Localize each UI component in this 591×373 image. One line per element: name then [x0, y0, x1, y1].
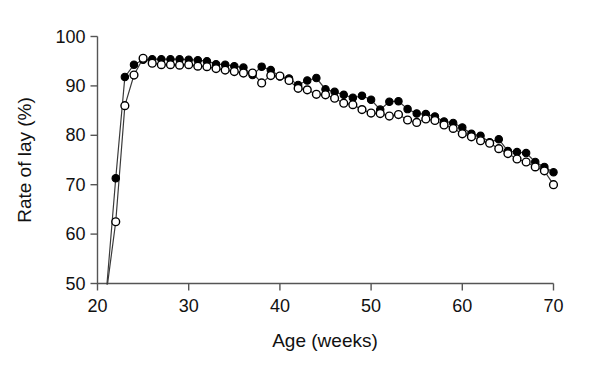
data-point-open: [449, 124, 457, 132]
data-point-open: [258, 79, 266, 87]
data-point-open: [349, 101, 357, 109]
data-point-filled: [112, 175, 119, 182]
data-point-open: [157, 61, 165, 69]
series-line-open: [107, 58, 554, 291]
series-line-filled: [107, 59, 554, 288]
data-point-open: [240, 69, 248, 77]
data-point-filled: [358, 92, 365, 99]
data-point-open: [495, 145, 503, 153]
x-axis-ticks: [98, 284, 554, 291]
data-point-open: [458, 130, 466, 138]
y-axis-tick-label: 80: [65, 125, 85, 145]
data-point-open: [322, 91, 330, 99]
data-point-open: [331, 94, 339, 102]
data-point-filled: [495, 136, 502, 143]
x-axis-tick-label: 50: [361, 296, 381, 316]
data-point-open: [468, 133, 476, 141]
data-point-open: [367, 109, 375, 117]
data-point-open: [230, 68, 238, 76]
data-point-open: [385, 112, 393, 120]
data-point-filled: [404, 105, 411, 112]
data-point-open: [130, 71, 138, 79]
x-axis-tick-label: 60: [452, 296, 472, 316]
y-axis-label: Rate of lay (%): [14, 97, 35, 223]
data-point-open: [550, 181, 558, 189]
data-point-filled: [130, 61, 137, 68]
chart-figure: 5060708090100 203040506070 Age (weeks) R…: [0, 0, 591, 373]
data-point-open: [440, 121, 448, 129]
data-point-open: [167, 61, 175, 69]
rate-of-lay-line-chart: 5060708090100 203040506070 Age (weeks) R…: [0, 0, 591, 373]
data-point-open: [540, 167, 548, 175]
data-point-filled: [304, 77, 311, 84]
x-axis-label: Age (weeks): [272, 330, 378, 351]
y-axis-tick-label: 90: [65, 76, 85, 96]
y-axis-tick-label: 50: [65, 274, 85, 294]
data-point-open: [112, 218, 120, 226]
data-point-open: [431, 117, 439, 125]
data-point-open: [531, 163, 539, 171]
series-lines: [107, 58, 554, 291]
data-point-open: [522, 158, 530, 166]
data-point-open: [276, 72, 284, 80]
data-point-open: [294, 84, 302, 92]
data-point-open: [340, 99, 348, 107]
data-point-filled: [550, 169, 557, 176]
data-point-filled: [258, 63, 265, 70]
data-point-open: [404, 116, 412, 124]
data-point-open: [376, 110, 384, 118]
data-point-filled: [395, 98, 402, 105]
x-axis-tick-labels: 203040506070: [87, 296, 563, 316]
data-point-open: [194, 62, 202, 70]
chart-axes: [98, 37, 554, 284]
axis-spine-path: [98, 37, 554, 284]
data-point-filled: [313, 74, 320, 81]
y-axis-tick-label: 60: [65, 224, 85, 244]
data-point-open: [267, 72, 275, 80]
data-point-open: [139, 54, 147, 62]
data-point-open: [303, 86, 311, 94]
data-point-open: [148, 59, 156, 67]
data-point-open: [176, 61, 184, 69]
data-point-open: [185, 61, 193, 69]
data-point-open: [422, 115, 430, 123]
x-axis-tick-label: 20: [87, 296, 107, 316]
series-data-points: [112, 54, 558, 225]
data-point-filled: [413, 110, 420, 117]
data-point-open: [413, 119, 421, 127]
y-axis-tick-label: 100: [55, 27, 85, 47]
data-point-filled: [367, 96, 374, 103]
data-point-open: [221, 66, 229, 74]
x-axis-tick-label: 70: [543, 296, 563, 316]
data-point-filled: [121, 73, 128, 80]
data-point-open: [358, 106, 366, 114]
data-point-open: [212, 65, 220, 73]
data-point-filled: [340, 91, 347, 98]
data-point-open: [395, 111, 403, 119]
x-axis-tick-label: 40: [270, 296, 290, 316]
data-point-open: [121, 102, 129, 110]
data-point-open: [504, 150, 512, 158]
data-point-open: [477, 137, 485, 145]
y-axis-ticks: [91, 37, 98, 284]
data-point-filled: [522, 149, 529, 156]
data-point-filled: [386, 98, 393, 105]
data-point-open: [513, 155, 521, 163]
y-axis-tick-labels: 5060708090100: [55, 27, 85, 294]
data-point-open: [312, 90, 320, 98]
data-point-open: [249, 69, 257, 77]
y-axis-tick-label: 70: [65, 175, 85, 195]
data-point-open: [203, 63, 211, 71]
data-point-open: [486, 139, 494, 147]
data-point-open: [285, 77, 293, 85]
x-axis-tick-label: 30: [179, 296, 199, 316]
